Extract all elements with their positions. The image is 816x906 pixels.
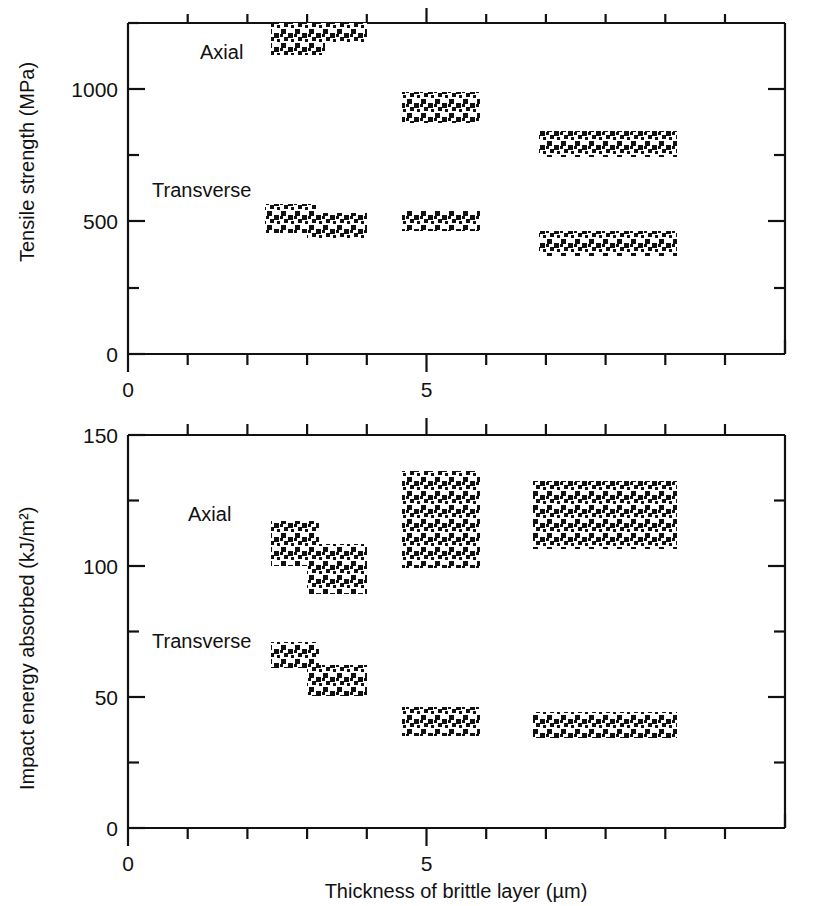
bottom-xtick-5: 5 <box>421 852 433 875</box>
data-patch <box>307 544 367 594</box>
data-patch <box>539 131 677 157</box>
canvas-background <box>0 0 816 906</box>
data-patch <box>271 23 325 55</box>
top-y-axis-title: Tensile strength (MPa) <box>16 62 38 262</box>
data-patch <box>539 231 677 256</box>
data-patch <box>319 23 367 43</box>
x-axis-title: Thickness of brittle layer (µm) <box>325 880 588 902</box>
bottom-ytick-0: 0 <box>106 817 118 840</box>
data-patch <box>307 213 367 239</box>
bottom-y-axis-title: Impact energy absorbed (kJ/m²) <box>16 507 38 790</box>
data-patch <box>533 712 677 738</box>
top-xtick-5: 5 <box>421 378 433 401</box>
top-ytick-0: 0 <box>106 343 118 366</box>
top-series-label-transverse: Transverse <box>152 179 251 201</box>
bottom-ytick-50: 50 <box>95 686 118 709</box>
bottom-series-label-axial: Axial <box>188 503 231 525</box>
data-patch <box>533 481 677 549</box>
data-patch <box>402 211 480 231</box>
data-patch <box>402 471 480 568</box>
bottom-ytick-150: 150 <box>83 424 118 447</box>
top-xtick-0: 0 <box>122 378 134 401</box>
data-patch <box>307 665 367 696</box>
bottom-xtick-0: 0 <box>122 852 134 875</box>
top-ytick-1000: 1000 <box>71 78 118 101</box>
bottom-series-label-transverse: Transverse <box>152 630 251 652</box>
figure-root: 1000 500 0 0 5 Tensile strength (MPa) Ax… <box>0 0 816 906</box>
two-panel-scatter-range-chart: 1000 500 0 0 5 Tensile strength (MPa) Ax… <box>0 0 816 906</box>
bottom-ytick-100: 100 <box>83 555 118 578</box>
top-series-label-axial: Axial <box>200 41 243 63</box>
data-patch <box>402 707 480 736</box>
top-ytick-500: 500 <box>83 210 118 233</box>
data-patch <box>402 92 480 123</box>
data-patch <box>271 642 319 668</box>
